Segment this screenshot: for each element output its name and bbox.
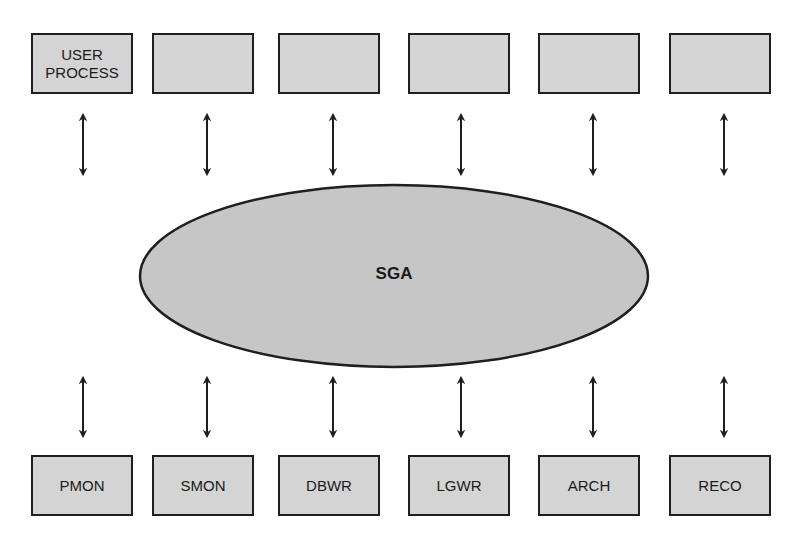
- lgwr-box: LGWR: [408, 455, 510, 516]
- arch-box: ARCH: [538, 455, 640, 516]
- box-label: LGWR: [437, 477, 482, 495]
- process-box: [152, 33, 254, 94]
- sga-label: SGA: [344, 264, 444, 284]
- box-label: ARCH: [568, 477, 611, 495]
- process-box: [278, 33, 380, 94]
- user-process-box: USER PROCESS: [31, 33, 133, 94]
- pmon-box: PMON: [31, 455, 133, 516]
- process-box: [669, 33, 771, 94]
- box-label: PMON: [60, 477, 105, 495]
- process-box: [538, 33, 640, 94]
- box-label: SMON: [181, 477, 226, 495]
- reco-box: RECO: [669, 455, 771, 516]
- box-label: RECO: [698, 477, 741, 495]
- process-box: [408, 33, 510, 94]
- smon-box: SMON: [152, 455, 254, 516]
- box-label: DBWR: [306, 477, 352, 495]
- box-label: USER PROCESS: [45, 46, 118, 82]
- dbwr-box: DBWR: [278, 455, 380, 516]
- top-arrows: [83, 117, 724, 172]
- bottom-arrows: [83, 380, 724, 434]
